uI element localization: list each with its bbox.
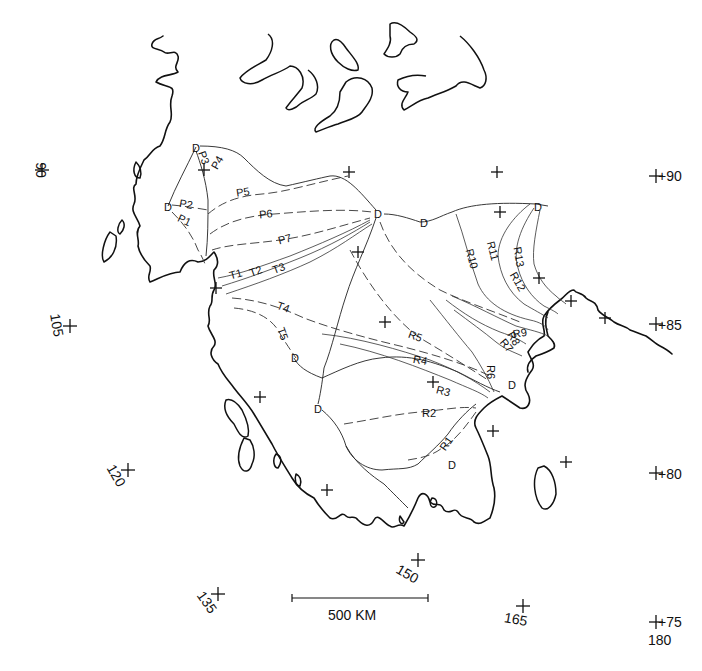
grid-tick-icon — [494, 206, 506, 218]
divide-marker-d6: D — [291, 352, 299, 364]
divide-marker-d3: D — [374, 208, 382, 220]
graticule-label-lat90-left: 90 — [33, 162, 49, 178]
profile-label-R4: R4 — [412, 353, 428, 367]
divide-marker-d7: D — [314, 403, 322, 415]
graticule-label-lat80-right: +80 — [658, 466, 682, 482]
graticule-label-lat85-right: +85 — [658, 317, 682, 333]
profile-label-R12: R12 — [508, 270, 528, 293]
scale-bar: 500 KM — [292, 594, 428, 623]
flowline-R1 — [408, 412, 476, 460]
graticule-label-lon165: 165 — [503, 609, 529, 629]
grid-tick-icon — [343, 166, 355, 178]
scale-bar-label: 500 KM — [328, 607, 376, 623]
island — [238, 438, 254, 471]
grid-tick-icon — [379, 316, 391, 328]
ice-divide — [384, 203, 548, 222]
grid-tick-icon — [210, 282, 222, 294]
flowline-T4 — [232, 298, 490, 376]
flowline-R13 — [533, 210, 566, 304]
profile-label-layer: P1P2P3P4P5P6P7T1T2T3T4T5R1R2R3R4R5R6R7R8… — [176, 149, 528, 452]
coastline-east-bay — [527, 312, 554, 372]
flowline-P5 — [208, 176, 348, 214]
grid-tick-icon — [487, 425, 499, 437]
graticule-label-lat75-right: +75 — [658, 614, 682, 630]
island — [535, 466, 556, 509]
profile-label-P7: P7 — [277, 231, 293, 246]
divide-marker-d8: D — [508, 379, 516, 391]
profile-label-P2: P2 — [179, 197, 194, 211]
profile-label-R2: R2 — [422, 407, 436, 419]
profile-label-R11: R11 — [485, 240, 502, 262]
divide-marker-d9: D — [448, 459, 456, 471]
graticule-label-lon180: 180 — [648, 632, 672, 648]
ice-divide-layer — [168, 146, 548, 508]
flowline-P6 — [210, 210, 372, 234]
profile-label-R6: R6 — [485, 365, 497, 379]
profile-label-T3: T3 — [271, 260, 287, 276]
coastline-layer — [133, 36, 672, 527]
ice-sheet-map: 90+90105+85120+80150135165+75180 DDDDDDD… — [0, 0, 702, 671]
flowline-R10 — [456, 214, 548, 330]
grid-tick-icon — [491, 166, 503, 178]
graticule-tick-icon — [411, 553, 425, 567]
grid-tick-icon — [254, 391, 266, 403]
island — [397, 36, 486, 110]
island — [315, 78, 372, 132]
graticule-label-lat90-right: +90 — [658, 168, 682, 184]
profile-label-R5: R5 — [407, 328, 424, 344]
island — [274, 454, 281, 468]
profile-label-R9: R9 — [512, 326, 528, 340]
grid-tick-icon — [565, 295, 577, 307]
grid-tick-icon — [321, 484, 333, 496]
island — [295, 474, 301, 486]
flowline-layer — [172, 176, 566, 460]
island — [118, 220, 124, 234]
graticule-label-lon120: 120 — [104, 461, 130, 489]
profile-label-R13: R13 — [511, 246, 526, 268]
profile-label-T4: T4 — [275, 299, 291, 315]
profile-label-R3: R3 — [435, 383, 452, 398]
flowline-R2 — [344, 407, 476, 424]
flowline-R9 — [452, 296, 548, 336]
graticule-label-lon135: 135 — [194, 588, 221, 616]
grid-tick-icon — [560, 456, 572, 468]
profile-label-P1: P1 — [176, 212, 193, 229]
island — [399, 516, 404, 524]
divide-marker-d2: D — [164, 201, 172, 213]
divide-marker-d5: D — [534, 201, 542, 213]
profile-label-R10: R10 — [464, 247, 481, 270]
coastline-west — [133, 36, 672, 527]
profile-label-P6: P6 — [259, 207, 273, 220]
flowline-P7 — [212, 218, 370, 250]
island — [225, 400, 249, 437]
profile-label-T5: T5 — [275, 326, 291, 342]
island — [240, 34, 318, 110]
island — [331, 39, 359, 70]
profile-label-P4: P4 — [208, 154, 225, 172]
graticule-layer: 90+90105+85120+80150135165+75180 — [33, 162, 682, 648]
ice-divide — [294, 357, 500, 392]
profile-label-P5: P5 — [235, 185, 250, 199]
divide-marker-layer: DDDDDDDDD — [164, 142, 542, 471]
island — [384, 23, 417, 57]
divide-marker-d4: D — [420, 217, 428, 229]
flowline-center — [380, 222, 520, 322]
ice-divide — [346, 446, 408, 508]
profile-label-T2: T2 — [248, 263, 264, 279]
graticule-label-lon105: 105 — [47, 312, 67, 338]
profile-label-T1: T1 — [228, 266, 244, 281]
ice-divide — [196, 151, 208, 256]
island — [102, 232, 116, 262]
